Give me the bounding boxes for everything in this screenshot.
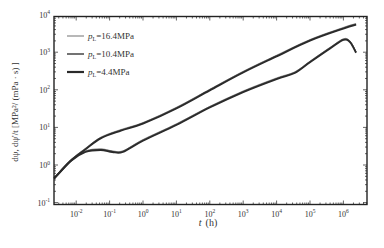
legend: pL=16.4MPapL=10.4MPapL=4.4MPa: [67, 31, 134, 78]
legend-label: pL=4.4MPa: [87, 67, 130, 78]
y-tick-label: 10-1: [37, 197, 50, 208]
x-tick-label: 101: [171, 208, 182, 219]
derivative-curve: [54, 38, 356, 177]
x-tick-label: 105: [305, 208, 316, 219]
x-axis-ticks: 10-210-1100101102103104105106: [59, 17, 367, 219]
y-tick-label: 102: [39, 84, 50, 95]
y-axis-ticks: 10-1100101102103104: [37, 9, 367, 208]
pressure-curve: [54, 25, 356, 179]
svg-text:t(h): t(h): [199, 217, 217, 229]
y-axis-label: dψ, dψ'/t [MPa²/ (mPa · s) ]: [10, 62, 20, 161]
x-tick-label: 104: [271, 208, 282, 219]
x-tick-label: 103: [238, 208, 249, 219]
chart-canvas: 10-210-1100101102103104105106 10-1100101…: [0, 0, 384, 248]
plot-curves: [54, 24, 356, 179]
x-tick-label: 10-2: [70, 208, 83, 219]
x-axis-label: t(h): [199, 217, 217, 229]
y-tick-label: 104: [39, 9, 50, 20]
pressure-curve: [54, 24, 356, 178]
y-tick-label: 103: [39, 47, 50, 58]
y-tick-label: 101: [39, 122, 50, 133]
legend-label: pL=10.4MPa: [87, 49, 134, 60]
x-tick-label: 10-1: [103, 208, 116, 219]
pressure-curve: [54, 24, 356, 178]
legend-label: pL=16.4MPa: [87, 31, 134, 42]
plot-frame: [54, 17, 367, 205]
chart-figure: 10-210-1100101102103104105106 10-1100101…: [0, 0, 384, 248]
x-tick-label: 106: [338, 208, 349, 219]
y-tick-label: 100: [39, 160, 50, 171]
x-tick-label: 100: [138, 208, 149, 219]
svg-text:dψ, dψ'/t [MPa²/ (mPa · s) ]: dψ, dψ'/t [MPa²/ (mPa · s) ]: [10, 62, 20, 161]
